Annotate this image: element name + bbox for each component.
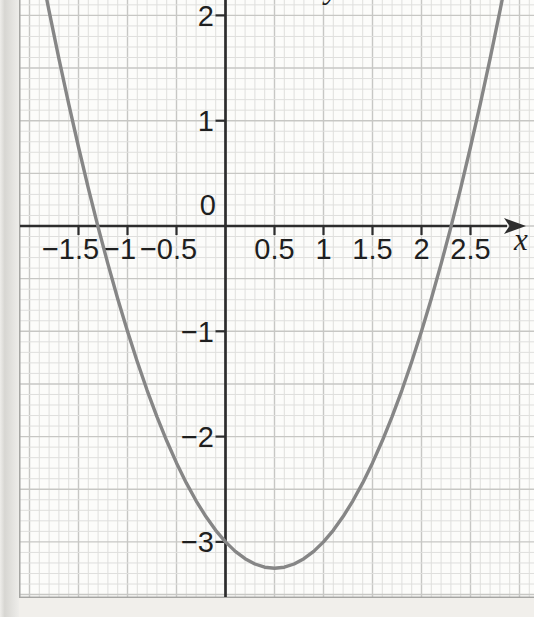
x-tick-label: 1 (315, 233, 331, 265)
y-tick-label: −2 (181, 421, 214, 453)
y-tick-label: −3 (181, 526, 214, 558)
x-axis-label: x (513, 222, 528, 257)
y-tick-label: 2 (198, 0, 214, 32)
function-graph: −1.5−1−0.50.511.522.521−1−2−30xy (0, 0, 534, 617)
grid-paper (19, 0, 534, 598)
y-tick-label: 1 (198, 105, 214, 137)
x-tick-label: 2 (413, 233, 429, 265)
origin-label: 0 (200, 189, 216, 221)
x-tick-label: 0.5 (254, 233, 294, 265)
y-tick-label: −1 (181, 316, 214, 348)
x-tick-label: 1.5 (352, 233, 392, 265)
graph-page: −1.5−1−0.50.511.522.521−1−2−30xy (0, 0, 534, 617)
x-tick-label: −0.5 (140, 233, 197, 265)
x-tick-label: −1.5 (42, 233, 99, 265)
y-axis-label-partial: y (322, 0, 339, 5)
x-tick-label: 2.5 (450, 233, 490, 265)
page-edge-strip (0, 0, 19, 617)
